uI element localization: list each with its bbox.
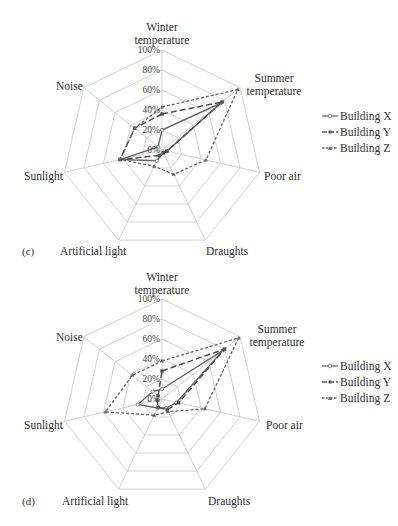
axis-label-line: Summer (244, 72, 304, 85)
axis-label-summer-temperature: Summer temperature (247, 323, 307, 349)
axis-label-sunlight: Sunlight (24, 419, 63, 432)
legend-item-building-z: Building Z (322, 140, 391, 156)
data-point-marker (151, 390, 154, 393)
panel-label: (d) (22, 495, 35, 507)
axis-label-draughts: Draughts (206, 245, 248, 258)
legend-item-building-y: Building Y (322, 374, 391, 390)
axis-label-winter-temperature: Winter temperature (125, 21, 199, 47)
axis-label-line: temperature (247, 336, 307, 349)
legend-label: Building X (340, 358, 391, 374)
data-point-marker (155, 159, 158, 162)
legend-item-building-y: Building Y (322, 124, 391, 140)
data-point-marker (160, 128, 163, 131)
legend-item-building-x: Building X (322, 108, 391, 124)
axis-label-line: Summer (247, 323, 307, 336)
axis-label-summer-temperature: Summer temperature (244, 72, 304, 98)
data-point-marker (160, 112, 163, 115)
axis-label-poor-air: Poor air (266, 419, 303, 432)
panel-label: (c) (22, 245, 34, 257)
data-point-marker (152, 164, 156, 168)
axis-spoke (119, 399, 162, 489)
tick-60: 60% (130, 85, 160, 95)
data-point-marker (223, 347, 226, 350)
tick-80: 80% (130, 65, 160, 75)
legend-label: Building Y (340, 124, 391, 140)
tick-20: 20% (130, 374, 160, 384)
legend-line-longdash-icon (322, 378, 338, 386)
series-building-y (157, 349, 224, 410)
data-point-marker (221, 100, 224, 103)
axis-label-artificial-light: Artificial light (62, 495, 128, 508)
legend: Building X Building Y Building Z (322, 358, 391, 406)
tick-100: 100% (130, 294, 160, 304)
legend-item-building-x: Building X (322, 358, 391, 374)
data-point-marker (177, 401, 180, 404)
data-point-marker (160, 369, 163, 372)
data-point-marker (156, 405, 159, 408)
legend-line-dashed-icon (322, 144, 338, 152)
tick-0: 0% (130, 145, 160, 155)
axis-label-sunlight: Sunlight (24, 170, 63, 183)
axis-spoke (162, 150, 205, 240)
axis-label-noise: Noise (56, 331, 83, 344)
data-point-marker (162, 151, 165, 154)
legend-line-solid-icon (322, 362, 338, 370)
radar-chart-c: Winter temperature Summer temperature Po… (0, 0, 398, 263)
radar-chart-d: Winter temperature Summer temperature Po… (0, 263, 398, 526)
legend-line-dashed-icon (322, 394, 338, 402)
data-point-marker (236, 87, 240, 91)
data-point-marker (165, 149, 168, 152)
axis-label-artificial-light: Artificial light (60, 245, 126, 258)
data-point-marker (160, 387, 163, 390)
legend-label: Building Z (340, 140, 390, 156)
tick-20: 20% (130, 125, 160, 135)
axis-label-poor-air: Poor air (264, 170, 301, 183)
axis-label-draughts: Draughts (208, 495, 250, 508)
tick-0: 0% (130, 394, 160, 404)
tick-80: 80% (130, 314, 160, 324)
tick-40: 40% (130, 354, 160, 364)
legend-label: Building Z (340, 390, 390, 406)
legend-line-solid-icon (322, 112, 338, 120)
axis-label-line: Winter (125, 21, 199, 34)
legend-label: Building X (340, 108, 391, 124)
legend-item-building-z: Building Z (322, 390, 391, 406)
legend-label: Building Y (340, 374, 391, 390)
tick-100: 100% (130, 45, 160, 55)
tick-40: 40% (130, 105, 160, 115)
axis-label-noise: Noise (56, 80, 83, 93)
axis-label-line: temperature (244, 85, 304, 98)
axis-label-line: Winter (125, 271, 199, 284)
tick-60: 60% (130, 334, 160, 344)
legend: Building X Building Y Building Z (322, 108, 391, 156)
legend-line-longdash-icon (322, 128, 338, 136)
